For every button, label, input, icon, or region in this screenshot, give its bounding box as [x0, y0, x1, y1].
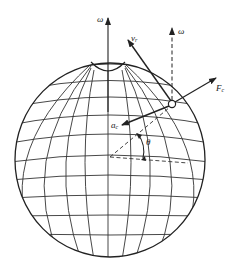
longitude-line: [44, 66, 91, 260]
omega-parallel-label: ω: [178, 27, 184, 36]
coriolis-sphere-diagram: ω ω vr Fc ac θ: [0, 0, 237, 266]
latitude-line: [10, 195, 210, 198]
latitude-line: [10, 175, 210, 180]
coriolis-accel-label: ac: [111, 121, 118, 130]
particle-circle-icon: [168, 100, 175, 107]
radius-dashed-line: [110, 107, 170, 157]
coriolis-force-label: Fc: [216, 84, 224, 93]
sphere-figure: [0, 0, 237, 266]
longitude-line: [85, 70, 94, 260]
theta-label: θ: [146, 138, 150, 147]
latitude-line: [10, 81, 210, 94]
omega-axis-label: ω: [97, 15, 103, 24]
relative-velocity-arrow: [128, 40, 171, 101]
longitude-line: [122, 70, 131, 260]
coriolis-force-arrow: [175, 78, 216, 102]
latitude-line: [10, 234, 210, 235]
sphere-outline: [15, 63, 205, 257]
longitude-line: [125, 64, 194, 260]
longitude-line: [22, 64, 91, 260]
relative-velocity-label: vr: [131, 34, 137, 43]
latitude-line: [10, 215, 210, 216]
latitude-line: [10, 134, 210, 143]
latitude-line: [10, 155, 210, 162]
latitude-line: [10, 115, 210, 125]
longitude-line: [125, 66, 172, 260]
sphere-grid: [10, 64, 210, 260]
